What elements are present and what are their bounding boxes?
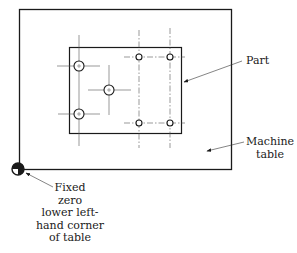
centerlines-left bbox=[57, 35, 131, 146]
part-leader-arrow bbox=[184, 61, 242, 82]
hole-small bbox=[167, 120, 173, 126]
machine-table-label-line2: table bbox=[244, 148, 296, 161]
part-outline bbox=[70, 48, 182, 134]
machine-table bbox=[20, 10, 232, 170]
table-leader-arrow bbox=[207, 142, 244, 151]
fixed-zero-label-line3: lower left- bbox=[30, 207, 110, 220]
machine-table-label: Machine table bbox=[244, 135, 296, 161]
fixed-zero-icon bbox=[12, 163, 24, 175]
hole-small bbox=[136, 54, 142, 60]
fixed-zero-label-line5: of table bbox=[30, 232, 110, 245]
part-label: Part bbox=[246, 54, 269, 67]
hole-small bbox=[167, 54, 173, 60]
fixed-zero-label-line1: Fixed bbox=[30, 182, 110, 195]
hole-small bbox=[136, 120, 142, 126]
centerlines-right bbox=[124, 28, 185, 148]
machine-table-label-line1: Machine bbox=[244, 135, 296, 148]
fixed-zero-label: Fixed zero lower left- hand corner of ta… bbox=[30, 182, 110, 245]
